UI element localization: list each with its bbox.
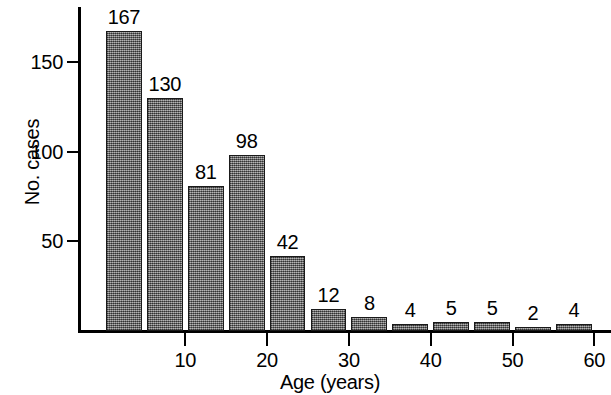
x-axis-title: Age (years) (230, 371, 430, 393)
bar-value-label: 167 (94, 7, 154, 27)
bar (392, 324, 428, 331)
bar-value-label: 130 (135, 74, 195, 94)
bar-value-label: 4 (544, 300, 604, 320)
x-axis-tick (593, 333, 595, 346)
x-axis-tick (430, 333, 432, 346)
y-axis-tick-label: 100 (31, 142, 63, 162)
x-axis-tick-label: 40 (408, 349, 454, 371)
x-axis-tick-label: 30 (326, 349, 372, 371)
x-axis-tick (512, 333, 514, 346)
bar (556, 324, 592, 331)
x-axis-tick-label: 10 (162, 349, 208, 371)
y-axis-tick-label: 50 (41, 231, 63, 251)
x-axis-tick-label: 60 (571, 349, 611, 371)
bar-value-label: 81 (176, 162, 236, 182)
x-axis-tick-label: 50 (490, 349, 536, 371)
y-axis-tick-label: 150 (31, 52, 63, 72)
x-axis-tick-label: 20 (244, 349, 290, 371)
bar (188, 186, 224, 331)
x-axis-tick (184, 333, 186, 346)
x-axis-tick (348, 333, 350, 346)
y-axis-line (78, 7, 81, 333)
x-axis-tick (266, 333, 268, 346)
bar (433, 322, 469, 331)
y-axis-tick (67, 151, 79, 153)
bar (147, 98, 183, 331)
bar (515, 327, 551, 331)
y-axis-tick (67, 61, 79, 63)
bar (311, 309, 347, 331)
y-axis-tick (67, 240, 79, 242)
bar-value-label: 98 (217, 131, 277, 151)
bar-chart: No. cases Age (years) 50 100 150 10 20 3… (0, 0, 611, 395)
bar-value-label: 42 (258, 232, 318, 252)
